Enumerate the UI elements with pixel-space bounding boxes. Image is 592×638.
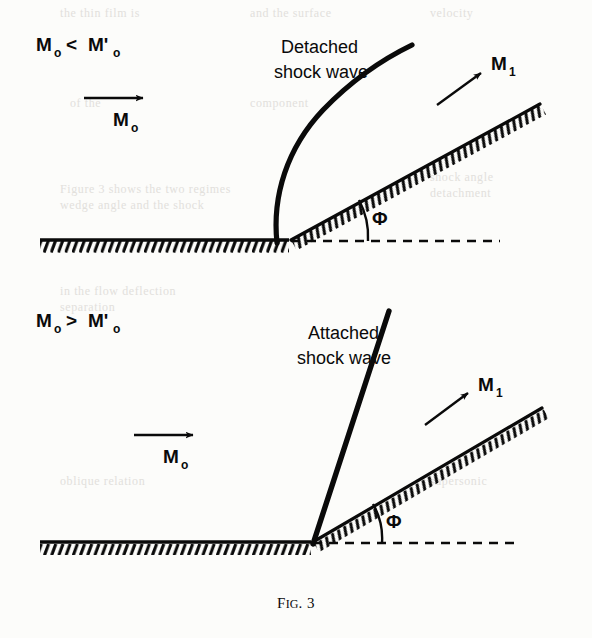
downstream-mach-label: M <box>491 53 507 74</box>
condition-mprime-sub: o <box>113 322 120 336</box>
condition-m0-sub: o <box>54 322 61 336</box>
panel-attached: M o > M' o M o Attached shock wave <box>36 310 549 555</box>
condition-label-detached: M o < M' o <box>36 34 120 60</box>
upstream-mach-label: M <box>163 446 179 467</box>
figure-page: the thin film isand the surfacevelocityo… <box>0 0 592 638</box>
upstream-flow-arrow-attached: M o <box>134 435 193 472</box>
condition-label-attached: M o > M' o <box>36 310 120 336</box>
shock-wave-figure: M o < M' o M o Detached shock wave <box>0 0 592 638</box>
condition-mprime: M' <box>88 310 108 331</box>
wedge-surface-detached <box>291 104 546 251</box>
caption-prefix: F <box>277 595 286 611</box>
condition-m0-sub: o <box>54 46 61 60</box>
condition-m0: M <box>36 310 52 331</box>
downstream-flow-arrow-attached: M 1 <box>425 374 503 425</box>
condition-operator: > <box>66 310 77 331</box>
upstream-mach-sub: o <box>131 121 138 135</box>
condition-m0: M <box>36 34 52 55</box>
shock-annotation-detached: Detached shock wave <box>274 37 368 82</box>
downstream-flow-arrow-detached: M 1 <box>437 53 516 105</box>
shock-label-line1: Attached <box>308 323 379 343</box>
condition-mprime-sub: o <box>113 46 120 60</box>
upstream-flow-arrow-detached: M o <box>84 98 143 135</box>
caption-suffix: . 3 <box>299 595 316 611</box>
ground-surface-attached <box>40 542 311 555</box>
downstream-mach-label: M <box>478 374 494 395</box>
figure-caption: FIG. 3 <box>0 594 592 612</box>
downstream-mach-sub: 1 <box>496 386 503 400</box>
angle-label-phi: Φ <box>386 511 402 532</box>
condition-mprime: M' <box>88 34 108 55</box>
panel-detached: M o < M' o M o Detached shock wave <box>36 34 546 253</box>
downstream-mach-sub: 1 <box>509 65 516 79</box>
upstream-mach-sub: o <box>181 458 188 472</box>
condition-operator: < <box>66 34 77 55</box>
angle-label-phi: Φ <box>372 208 388 229</box>
caption-smallcaps: IG <box>286 597 299 611</box>
shock-label-line1: Detached <box>281 37 358 57</box>
ground-surface-detached <box>40 240 289 253</box>
upstream-mach-label: M <box>113 109 129 130</box>
